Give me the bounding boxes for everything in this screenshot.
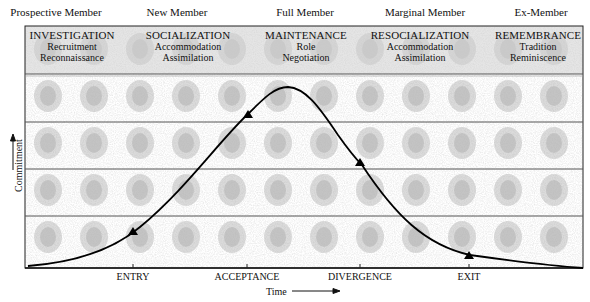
stage-maintenance: MAINTENANCE Role Negotiation [256,30,356,63]
transition-label-divergence: DIVERGENCE [328,271,392,282]
stage-name: RESOCIALIZATION [365,30,475,41]
stage-name: MAINTENANCE [256,30,356,41]
stage-sub-2: Reconnaissance [22,52,122,63]
y-axis-label: Commitment [13,126,24,206]
stage-sub-2: Assimilation [138,52,238,63]
transition-label-entry: ENTRY [117,271,150,282]
stage-name: INVESTIGATION [22,30,122,41]
stage-name: SOCIALIZATION [138,30,238,41]
stage-sub-1: Accommodation [365,41,475,52]
stage-sub-1: Accommodation [138,41,238,52]
phase-title-ex: Ex-Member [491,6,590,18]
stage-sub-1: Role [256,41,356,52]
phase-title-new: New Member [127,6,227,18]
stage-sub-2: Assimilation [365,52,475,63]
x-axis-label: Time [266,286,287,297]
stage-sub-2: Negotiation [256,52,356,63]
stage-investigation: INVESTIGATION Recruitment Reconnaissance [22,30,122,63]
stage-resocialization: RESOCIALIZATION Accommodation Assimilati… [365,30,475,63]
phase-title-marginal: Marginal Member [375,6,475,18]
phase-title-prospective: Prospective Member [6,6,106,18]
x-axis-arrow-icon [292,289,340,294]
stage-sub-1: Tradition [488,41,588,52]
phase-title-full: Full Member [255,6,355,18]
transition-label-exit: EXIT [458,271,481,282]
stage-socialization: SOCIALIZATION Accommodation Assimilation [138,30,238,63]
transition-label-acceptance: ACCEPTANCE [215,271,280,282]
stage-remembrance: REMEMBRANCE Tradition Reminiscence [488,30,588,63]
stage-name: REMEMBRANCE [488,30,588,41]
stage-sub-1: Recruitment [22,41,122,52]
stage-sub-2: Reminiscence [488,52,588,63]
